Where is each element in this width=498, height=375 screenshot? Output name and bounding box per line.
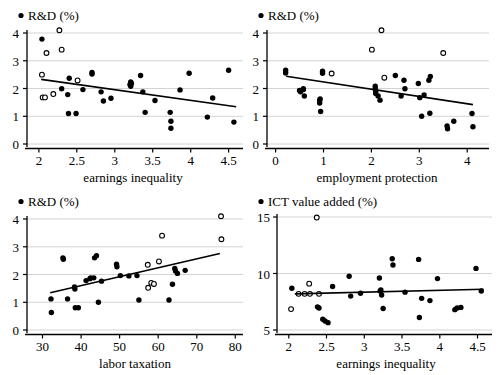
panel-2-legend: R&D (%) [258, 8, 319, 23]
data-point-filled [419, 114, 424, 119]
data-point-filled [167, 110, 172, 115]
data-point-filled [469, 111, 474, 116]
data-point-filled [166, 297, 171, 302]
data-point-filled [419, 296, 424, 301]
ytick-label: 0 [253, 137, 260, 152]
panel-1-xaxis-title: earnings inequality [83, 170, 183, 185]
data-point-filled [108, 96, 113, 101]
xtick-label: 4.5 [220, 153, 236, 168]
xtick-label: 3.5 [394, 339, 410, 354]
data-point-filled [114, 264, 119, 269]
panel-1-fit-line [41, 79, 236, 106]
xtick-label: 30 [36, 339, 49, 354]
data-point-filled [59, 86, 64, 91]
data-point-filled [458, 305, 463, 310]
panel-2-ytick-labels: 4 3 2 1 0 [253, 26, 260, 152]
data-point-filled [346, 274, 351, 279]
legend-marker-icon [18, 13, 23, 18]
data-point-filled [473, 266, 478, 271]
data-point-filled [379, 292, 384, 297]
ytick-label: 5 [264, 323, 271, 338]
xtick-label: 2 [368, 153, 375, 168]
data-point-filled [67, 76, 72, 81]
data-point-filled [49, 310, 54, 315]
xtick-label: 70 [190, 339, 203, 354]
panel-ict-vs-earnings-inequality: ICT value added (%) 15 [249, 188, 498, 375]
data-point-filled [80, 87, 85, 92]
data-point-filled [142, 110, 147, 115]
xtick-label: 60 [152, 339, 165, 354]
data-point-filled [177, 87, 182, 92]
data-point-filled [65, 296, 70, 301]
xtick-label: 1 [320, 153, 327, 168]
xtick-label: 3 [361, 339, 368, 354]
data-point-filled [152, 98, 157, 103]
data-point-filled [301, 86, 306, 91]
xtick-label: 3.5 [145, 153, 161, 168]
data-point-filled [373, 84, 378, 89]
data-point-filled [417, 315, 422, 320]
data-point-open [59, 47, 64, 52]
xtick-label: 40 [75, 339, 88, 354]
panel-2-legend-label: R&D (%) [268, 8, 319, 23]
data-point-filled [231, 119, 236, 124]
data-point-open [160, 233, 165, 238]
data-point-filled [205, 114, 210, 119]
xtick-label: 4 [437, 339, 444, 354]
panel-2-xaxis-title: employment protection [317, 170, 438, 185]
panel-4-legend-label: ICT value added (%) [268, 194, 377, 209]
data-point-filled [94, 253, 99, 258]
ytick-label: 4 [13, 212, 20, 227]
data-point-filled [380, 306, 385, 311]
data-point-open [40, 72, 45, 77]
data-point-open [369, 47, 374, 52]
data-point-filled [348, 293, 353, 298]
panel-4-legend: ICT value added (%) [258, 194, 377, 209]
xtick-label: 4.5 [469, 339, 485, 354]
ytick-label: 0 [13, 323, 20, 338]
data-point-filled [170, 282, 175, 287]
data-point-filled [101, 98, 106, 103]
data-point-open [382, 75, 387, 80]
data-point-open [314, 215, 319, 220]
data-point-filled [210, 95, 215, 100]
data-point-filled [91, 275, 96, 280]
xtick-label: 2.5 [318, 339, 334, 354]
data-point-filled [470, 124, 475, 129]
panel-4-gridlines [277, 217, 492, 330]
ytick-label: 2 [13, 268, 20, 283]
legend-marker-icon [258, 199, 263, 204]
data-point-open [307, 281, 312, 286]
panel-3-xaxis-title: labor taxation [99, 356, 171, 371]
panel-3-data-points [48, 214, 224, 315]
data-point-filled [318, 109, 323, 114]
data-point-filled [186, 71, 191, 76]
panel-1-legend-label: R&D (%) [28, 8, 79, 23]
xtick-label: 3 [112, 153, 119, 168]
data-point-filled [401, 77, 406, 82]
data-point-filled [402, 86, 407, 91]
data-point-filled [390, 256, 395, 261]
data-point-filled [320, 71, 325, 76]
xtick-label: 4 [187, 153, 194, 168]
panel-rd-vs-labor-taxation: R&D (%) [0, 188, 249, 375]
panel-4-svg: ICT value added (%) 15 [249, 188, 498, 375]
panel-3-svg: R&D (%) [0, 188, 249, 375]
data-point-filled [451, 119, 456, 124]
ytick-label: 2 [253, 82, 260, 97]
xtick-label: 2 [36, 153, 43, 168]
xtick-label: 3 [416, 153, 423, 168]
scatter-plot-figure: R&D (%) [0, 0, 498, 375]
data-point-open [152, 282, 157, 287]
legend-marker-icon [18, 199, 23, 204]
ytick-label: 4 [13, 26, 20, 41]
panel-1-xtick-labels: 2 2.5 3 3.5 4 4.5 [36, 153, 237, 168]
panel-3-legend-label: R&D (%) [28, 194, 79, 209]
data-point-open [51, 92, 56, 97]
panel-4-fit-line [295, 289, 484, 294]
data-point-filled [89, 71, 94, 76]
data-point-filled [330, 284, 335, 289]
panel-3-fit-line [50, 253, 220, 292]
panel-1-data-points [39, 28, 236, 131]
data-point-filled [377, 275, 382, 280]
